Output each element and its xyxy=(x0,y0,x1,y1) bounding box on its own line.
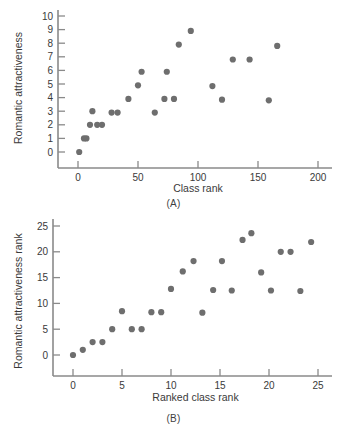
data-point xyxy=(76,149,82,155)
data-point xyxy=(210,287,216,293)
panel-a-caption: (A) xyxy=(0,198,347,209)
x-tick-label: 0 xyxy=(70,380,76,391)
y-tick-label: 10 xyxy=(42,11,54,22)
x-tick-label: 5 xyxy=(119,380,125,391)
data-point xyxy=(164,69,170,75)
y-tick-label: 3 xyxy=(47,106,53,117)
y-tick-label: 7 xyxy=(47,51,53,62)
data-point xyxy=(239,237,245,243)
data-point xyxy=(89,108,95,114)
data-point xyxy=(99,339,105,345)
data-point xyxy=(168,286,174,292)
scatter-chart-a: 012345678910050100150200Class rankRomant… xyxy=(0,0,347,215)
data-point xyxy=(258,269,264,275)
data-point xyxy=(274,43,280,49)
y-tick-label: 20 xyxy=(37,246,49,257)
data-point xyxy=(80,347,86,353)
x-axis-title: Ranked class rank xyxy=(152,391,239,403)
x-tick-label: 20 xyxy=(263,380,275,391)
data-point xyxy=(219,258,225,264)
data-point xyxy=(70,352,76,358)
data-point xyxy=(109,109,115,115)
data-point xyxy=(247,56,253,62)
data-point xyxy=(199,310,205,316)
y-tick-label: 0 xyxy=(42,350,48,361)
data-point xyxy=(287,249,293,255)
y-tick-label: 1 xyxy=(47,133,53,144)
data-point xyxy=(99,122,105,128)
y-tick-label: 4 xyxy=(47,92,53,103)
y-tick-label: 6 xyxy=(47,65,53,76)
data-point xyxy=(139,326,145,332)
y-tick-label: 25 xyxy=(37,221,49,232)
data-point xyxy=(297,288,303,294)
y-tick-label: 5 xyxy=(47,79,53,90)
y-tick-label: 5 xyxy=(42,324,48,335)
data-point xyxy=(188,28,194,34)
y-tick-label: 8 xyxy=(47,38,53,49)
data-point xyxy=(119,308,125,314)
x-tick-label: 15 xyxy=(214,380,226,391)
data-point xyxy=(180,268,186,274)
y-axis-title: Romantic attractiveness rank xyxy=(12,233,24,369)
x-axis-title: Class rank xyxy=(173,182,223,194)
data-point xyxy=(87,122,93,128)
y-tick-label: 10 xyxy=(37,298,49,309)
scatter-panel-b: 05101520250510152025Ranked class rankRom… xyxy=(0,215,347,434)
y-tick-label: 15 xyxy=(37,272,49,283)
data-point xyxy=(229,287,235,293)
scatter-chart-b: 05101520250510152025Ranked class rankRom… xyxy=(0,215,347,434)
y-axis-title: Romantic attractiveness xyxy=(12,32,24,144)
data-point xyxy=(278,249,284,255)
data-point xyxy=(209,83,215,89)
data-point xyxy=(129,326,135,332)
y-tick-label: 9 xyxy=(47,24,53,35)
data-point xyxy=(230,56,236,62)
data-point xyxy=(83,135,89,141)
data-point xyxy=(248,230,254,236)
data-point xyxy=(161,96,167,102)
x-tick-label: 150 xyxy=(250,172,267,183)
data-point xyxy=(308,239,314,245)
x-tick-label: 10 xyxy=(165,380,177,391)
y-tick-label: 0 xyxy=(47,147,53,158)
data-point xyxy=(171,96,177,102)
data-point xyxy=(266,97,272,103)
x-tick-label: 25 xyxy=(312,380,324,391)
panel-b-caption: (B) xyxy=(0,413,347,424)
data-point xyxy=(152,109,158,115)
data-point xyxy=(158,309,164,315)
data-point xyxy=(135,82,141,88)
x-tick-label: 0 xyxy=(75,172,81,183)
data-point xyxy=(125,96,131,102)
x-tick-label: 50 xyxy=(132,172,144,183)
scatter-panel-a: 012345678910050100150200Class rankRomant… xyxy=(0,0,347,215)
data-point xyxy=(148,309,154,315)
data-point xyxy=(109,326,115,332)
data-point xyxy=(90,339,96,345)
x-tick-label: 200 xyxy=(310,172,327,183)
data-point xyxy=(219,97,225,103)
data-point xyxy=(190,258,196,264)
data-point xyxy=(176,41,182,47)
data-point xyxy=(268,287,274,293)
data-point xyxy=(115,109,121,115)
data-point xyxy=(139,69,145,75)
y-tick-label: 2 xyxy=(47,119,53,130)
